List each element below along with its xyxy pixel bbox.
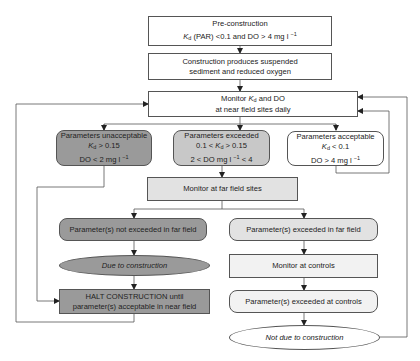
not-due-to-construction-ellipse: Not due to construction bbox=[229, 325, 380, 350]
not-due-to-construction-label: Not due to construction bbox=[265, 333, 343, 343]
due-to-construction-label: Due to construction bbox=[102, 261, 167, 271]
monitor-near-line1: Monitor Kd and DO bbox=[221, 94, 285, 105]
monitor-far-field-box: Monitor at far field sites bbox=[147, 177, 298, 201]
pre-construction-title: Pre-construction bbox=[212, 19, 267, 29]
exceeded-title: Parameters exceeded bbox=[184, 131, 258, 141]
construction-box: Construction produces suspended sediment… bbox=[148, 53, 332, 80]
parameters-acceptable-box: Parameters acceptable Kd < 0.1 DO > 4 mg… bbox=[287, 131, 384, 166]
exceeded-kd: 0.1 < Kd > 0.15 bbox=[196, 141, 247, 152]
not-exceeded-far-label: Parameter(s) not exceeded in far field bbox=[69, 225, 196, 235]
monitor-far-label: Monitor at far field sites bbox=[183, 184, 262, 194]
pre-construction-box: Pre-construction Kd (PAR) <0.1 and DO > … bbox=[148, 16, 332, 46]
parameters-unacceptable-box: Parameters unacceptable Kd > 0.15 DO < 2… bbox=[56, 130, 152, 166]
unacceptable-title: Parameters unacceptable bbox=[61, 131, 148, 141]
monitor-near-field-box: Monitor Kd and DO at near field sites da… bbox=[148, 91, 358, 117]
unacceptable-do: DO < 2 mg l −1 bbox=[79, 152, 128, 165]
exceeded-controls-label: Parameter(s) exceeded at controls bbox=[245, 297, 362, 307]
unacceptable-kd: Kd > 0.15 bbox=[88, 141, 120, 152]
exceeded-do: 2 < DO mg l −1 < 4 bbox=[190, 152, 252, 165]
exceeded-far-field-box: Parameter(s) exceeded in far field bbox=[229, 218, 378, 241]
halt-line2: parameter(s) acceptable in near field bbox=[73, 302, 197, 312]
exceeded-far-label: Parameter(s) exceeded in far field bbox=[246, 225, 360, 235]
construction-line2: sediment and reduced oxygen bbox=[189, 67, 291, 77]
exceeded-controls-box: Parameter(s) exceeded at controls bbox=[229, 290, 378, 313]
halt-line1: HALT CONSTRUCTION until bbox=[85, 292, 183, 302]
halt-construction-box: HALT CONSTRUCTION until parameter(s) acc… bbox=[59, 289, 210, 314]
parameters-exceeded-box: Parameters exceeded 0.1 < Kd > 0.15 2 < … bbox=[173, 130, 270, 166]
pre-construction-condition: Kd (PAR) <0.1 and DO > 4 mg l −1 bbox=[183, 29, 296, 43]
acceptable-kd: Kd < 0.1 bbox=[322, 142, 349, 153]
acceptable-do: DO > 4 mg l −1 bbox=[311, 153, 360, 166]
monitor-near-line2: at near field sites daily bbox=[215, 105, 290, 115]
construction-line1: Construction produces suspended bbox=[182, 57, 297, 67]
monitor-controls-label: Monitor at controls bbox=[272, 261, 334, 271]
acceptable-title: Parameters acceptable bbox=[296, 132, 374, 142]
due-to-construction-ellipse: Due to construction bbox=[59, 255, 210, 276]
not-exceeded-far-field-box: Parameter(s) not exceeded in far field bbox=[59, 218, 207, 241]
monitor-controls-box: Monitor at controls bbox=[229, 254, 378, 278]
